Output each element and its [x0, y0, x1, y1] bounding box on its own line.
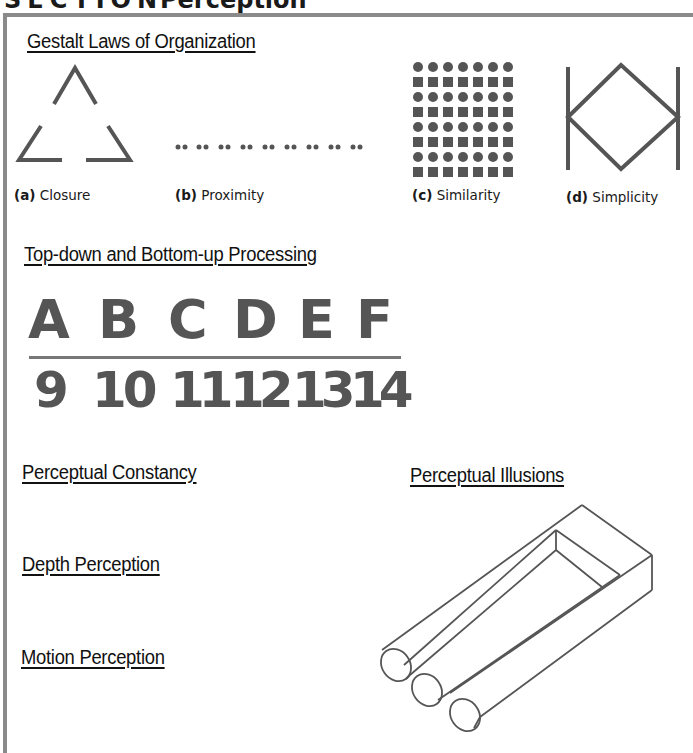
simplicity-diamond-icon	[565, 65, 685, 175]
depth-perception-heading: Depth Perception	[22, 553, 160, 576]
letters-row: A B C D E F	[28, 292, 408, 348]
section-label: SECTION	[4, 0, 163, 14]
proximity-caption: (b) Proximity	[175, 187, 264, 203]
motion-perception-heading: Motion Perception	[21, 646, 165, 669]
number-12: 12	[230, 362, 288, 418]
number-10: 10	[92, 362, 154, 418]
letter-b: B	[98, 292, 139, 348]
letter-a: A	[28, 292, 70, 348]
gestalt-heading: Gestalt Laws of Organization	[27, 30, 256, 53]
page-title: Perception	[160, 0, 307, 14]
letter-d: D	[233, 292, 278, 348]
similarity-grid-icon	[412, 61, 522, 171]
letter-f: F	[356, 292, 393, 348]
impossible-trident-icon	[370, 495, 680, 745]
number-14: 14	[350, 362, 408, 418]
letter-c: C	[168, 292, 208, 348]
processing-heading: Top-down and Bottom-up Processing	[24, 243, 317, 266]
numbers-row: 9 10 11 12 13 14	[34, 362, 414, 418]
number-13: 13	[292, 362, 350, 418]
perceptual-constancy-heading: Perceptual Constancy	[22, 461, 196, 484]
simplicity-caption: (d) Simplicity	[566, 189, 658, 205]
letter-e: E	[298, 292, 335, 348]
similarity-caption: (c) Similarity	[412, 187, 500, 203]
perceptual-illusions-heading: Perceptual Illusions	[410, 464, 564, 487]
number-11: 11	[170, 362, 228, 418]
number-9: 9	[34, 362, 65, 418]
closure-caption: (a) Closure	[14, 187, 90, 203]
processing-divider	[29, 356, 401, 359]
closure-triangle-icon	[0, 60, 140, 170]
title-bar: SECTION Perception	[0, 0, 683, 12]
proximity-dots-icon	[172, 141, 372, 153]
